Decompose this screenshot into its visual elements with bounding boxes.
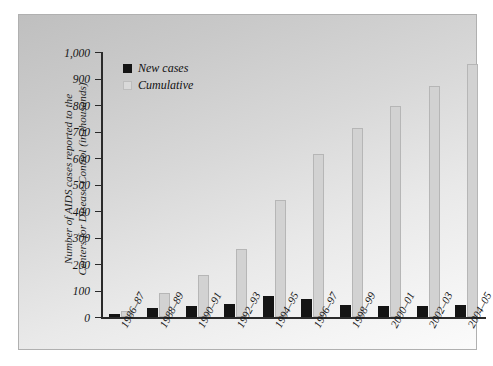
y-axis-tick: 1,000 <box>95 52 101 53</box>
bar-new-cases <box>378 306 389 317</box>
y-axis-tick-label: 300 <box>73 232 90 244</box>
y-axis-tick: 700 <box>95 132 101 133</box>
y-axis-tick-label: 400 <box>73 206 90 218</box>
bar-cumulative <box>429 86 440 317</box>
bar-group <box>301 52 324 317</box>
y-axis-tick: 600 <box>95 158 101 159</box>
bar-cumulative <box>390 106 401 317</box>
legend-item: Cumulative <box>123 78 193 93</box>
y-axis-tick: 900 <box>95 79 101 80</box>
chart-legend: New casesCumulative <box>123 61 193 95</box>
y-axis-tick-label: 100 <box>73 285 90 297</box>
bar-group <box>340 52 363 317</box>
y-axis-tick: 200 <box>95 264 101 265</box>
bar-group <box>417 52 440 317</box>
bar-new-cases <box>224 304 235 317</box>
legend-swatch-new-cases-icon <box>123 64 132 73</box>
y-axis-line <box>101 52 103 317</box>
bar-cumulative <box>352 128 363 317</box>
bar-group <box>263 52 286 317</box>
bar-new-cases <box>263 296 274 317</box>
bar-new-cases <box>186 306 197 317</box>
legend-swatch-cumulative-icon <box>123 81 132 90</box>
y-axis-tick: 400 <box>95 211 101 212</box>
y-axis-tick-label: 800 <box>73 100 90 112</box>
y-axis-tick-label: 0 <box>84 312 90 324</box>
y-axis-tick: 800 <box>95 105 101 106</box>
y-axis-tick-label: 600 <box>73 153 90 165</box>
y-axis-tick: 0 <box>95 317 101 318</box>
bar-cumulative <box>313 154 324 317</box>
bar-new-cases <box>109 314 120 317</box>
bar-new-cases <box>340 305 351 317</box>
y-axis-tick: 300 <box>95 238 101 239</box>
legend-item-label: New cases <box>138 61 188 76</box>
bar-new-cases <box>455 305 466 317</box>
y-axis-tick: 100 <box>95 291 101 292</box>
legend-item-label: Cumulative <box>138 78 193 93</box>
bar-new-cases <box>147 308 158 317</box>
y-axis-tick-label: 900 <box>73 73 90 85</box>
bar-new-cases <box>301 299 312 317</box>
bar-new-cases <box>417 306 428 317</box>
bar-group <box>378 52 401 317</box>
chart-figure: Number of AIDS cases reported to the Cen… <box>0 0 493 366</box>
bar-group <box>455 52 478 317</box>
y-axis-tick: 500 <box>95 185 101 186</box>
y-axis-tick-label: 1,000 <box>64 47 90 59</box>
chart-panel: Number of AIDS cases reported to the Cen… <box>18 14 477 350</box>
bar-cumulative <box>467 64 478 317</box>
y-axis-tick-label: 200 <box>73 259 90 271</box>
y-axis-tick-label: 500 <box>73 179 90 191</box>
legend-item: New cases <box>123 61 193 76</box>
bar-group <box>224 52 247 317</box>
y-axis-tick-label: 700 <box>73 126 90 138</box>
